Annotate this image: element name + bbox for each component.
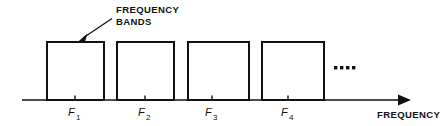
band-label-subscript: 2 bbox=[146, 113, 151, 122]
band-label-base: F bbox=[281, 106, 289, 118]
frequency-band-group bbox=[47, 42, 324, 100]
band-label-group: F 1 F 2 F 3 F 4 bbox=[68, 106, 294, 122]
frequency-band-rect bbox=[188, 42, 249, 100]
band-label-base: F bbox=[138, 106, 146, 118]
band-label-subscript: 3 bbox=[213, 113, 218, 122]
frequency-band-rect bbox=[47, 42, 104, 100]
band-label-base: F bbox=[205, 106, 213, 118]
band-label-subscript: 1 bbox=[76, 113, 81, 122]
band-label-subscript: 4 bbox=[289, 113, 294, 122]
callout-leader bbox=[77, 19, 113, 44]
frequency-band-rect bbox=[262, 42, 324, 100]
leader-line bbox=[83, 19, 112, 39]
callout-label: FREQUENCY BANDS bbox=[116, 4, 180, 27]
continuation-ellipsis-icon bbox=[334, 66, 355, 69]
frequency-band-rect bbox=[117, 42, 174, 100]
axis-arrowhead-icon bbox=[398, 95, 411, 106]
frequency-bands-diagram: F 1 F 2 F 3 F 4 FREQUENCY BANDS FREQUE bbox=[0, 0, 446, 126]
callout-label-line1: FREQUENCY bbox=[116, 4, 180, 15]
callout-label-line2: BANDS bbox=[116, 16, 152, 27]
band-label-base: F bbox=[68, 106, 76, 118]
axis-title: FREQUENCY bbox=[377, 109, 441, 120]
diagram-canvas: F 1 F 2 F 3 F 4 FREQUENCY BANDS FREQUE bbox=[0, 0, 446, 126]
